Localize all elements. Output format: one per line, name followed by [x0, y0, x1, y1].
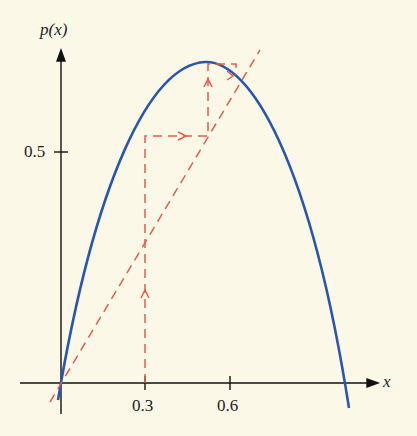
curve-p [58, 62, 349, 408]
arrow-right-icon [178, 132, 186, 140]
y-axis-label: p(x) [40, 20, 67, 40]
x-axis-label: x [383, 372, 391, 392]
x-tick-label: 0.3 [132, 396, 153, 416]
diagonal-line [50, 50, 260, 402]
cobweb-chart: p(x) x 0.5 0.3 0.6 [0, 0, 417, 436]
x-axis-arrow-icon [367, 379, 378, 387]
y-axis-arrow-icon [57, 50, 65, 61]
arrow-up-icon [141, 290, 149, 298]
chart-canvas [0, 0, 417, 436]
x-tick-label: 0.6 [217, 396, 238, 416]
y-tick-label: 0.5 [24, 142, 45, 162]
